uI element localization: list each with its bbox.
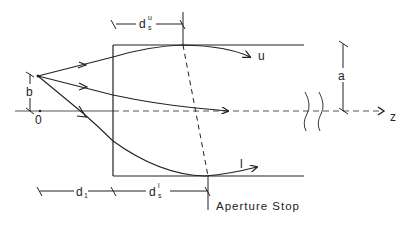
d1-sub: 1 — [84, 192, 88, 199]
lower-ray-label: l — [240, 157, 243, 171]
ds-upper-label: d — [139, 17, 146, 31]
aperture-stop-label: Aperture Stop — [216, 200, 300, 212]
optics-diagram: z u l b 0 a — [0, 0, 409, 226]
chief-ray — [38, 76, 228, 111]
source-point — [37, 75, 40, 78]
b-label: b — [26, 85, 33, 99]
ds-lower-sub: s — [158, 192, 162, 199]
ds-upper-sub: s — [148, 24, 152, 31]
bottom-dimensions — [37, 176, 210, 210]
upper-ray-label: u — [258, 49, 265, 63]
ds-upper-sup: u — [148, 14, 152, 21]
origin-point — [39, 110, 42, 113]
origin-label: 0 — [35, 113, 42, 127]
d1-label: d — [76, 185, 83, 199]
lower-ray — [38, 76, 257, 176]
a-label: a — [338, 69, 345, 83]
z-axis-label: z — [390, 110, 396, 124]
upper-ray — [38, 45, 250, 76]
ds-lower-sup: l — [158, 182, 160, 189]
ds-lower-label: d — [149, 185, 156, 199]
